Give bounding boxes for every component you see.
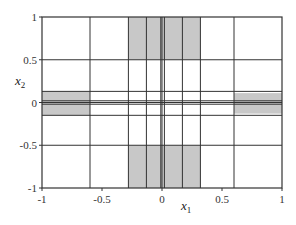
x-tick-label: 0.5: [215, 193, 229, 205]
chart: -1-0.500.51-1-0.500.51 x2 x1: [0, 0, 296, 225]
y-tick-label: -1: [28, 182, 37, 194]
y-tick-label: 1: [32, 11, 38, 23]
y-axis-label: x2: [14, 73, 25, 90]
x-tick-label: 0: [159, 193, 165, 205]
y-tick-label: 0: [32, 97, 38, 109]
shaded-cell: [42, 91, 90, 115]
partition-lines: [42, 17, 282, 188]
shaded-cell: [234, 93, 282, 114]
y-tick-label: 0.5: [23, 54, 37, 66]
y-tick-label: -0.5: [20, 139, 38, 151]
x-tick-label: -1: [37, 193, 46, 205]
x-tick-label: 1: [279, 193, 285, 205]
x-axis-label: x1: [180, 198, 191, 215]
x-tick-label: -0.5: [93, 193, 111, 205]
